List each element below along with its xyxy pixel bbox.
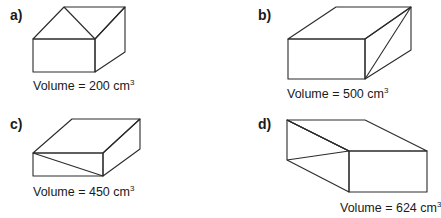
volume-label-a: Volume = 200 cm3 [33, 76, 134, 93]
part-label-b: b) [258, 8, 271, 22]
cuboid-a [33, 7, 125, 72]
volume-label-b: Volume = 500 cm3 [287, 84, 388, 101]
volume-text: Volume = 450 cm [33, 185, 130, 199]
volume-label-d: Volume = 624 cm3 [340, 198, 441, 215]
volume-text: Volume = 200 cm [33, 79, 130, 93]
cuboid-d [287, 120, 427, 192]
volume-text: Volume = 624 cm [340, 201, 437, 215]
cuboid-c [33, 119, 140, 176]
volume-text: Volume = 500 cm [287, 87, 384, 101]
unit-exponent: 3 [130, 184, 134, 193]
cuboid-b [288, 7, 411, 79]
part-label-a: a) [10, 8, 22, 22]
part-label-d: d) [258, 117, 271, 131]
volume-label-c: Volume = 450 cm3 [33, 182, 134, 199]
part-label-c: c) [10, 117, 22, 131]
unit-exponent: 3 [130, 78, 134, 87]
unit-exponent: 3 [384, 86, 388, 95]
unit-exponent: 3 [437, 200, 441, 209]
